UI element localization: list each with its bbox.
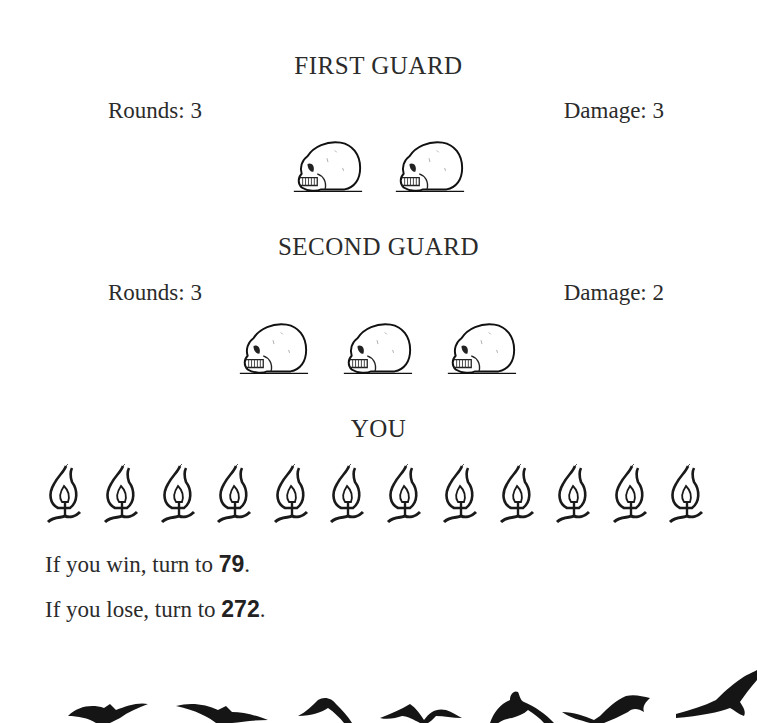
enemy-name-first-guard: FIRST GUARD [0,52,757,80]
enemy-rounds-first-guard: Rounds: 3 [108,98,202,124]
outcome-win: If you win, turn to 79. [45,551,250,578]
skull-icon [390,138,468,194]
skull-icon [288,138,366,194]
flame-icon [271,464,311,526]
flame-icon [384,464,424,526]
flame-icon [666,464,706,526]
enemy-health-first-guard [0,138,757,198]
flame-icon [214,464,254,526]
enemy-health-second-guard [0,320,757,380]
flame-icon [327,464,367,526]
outcome-lose-text: If you lose, turn to [45,597,221,622]
flame-icon [44,464,84,526]
flame-icon [158,464,198,526]
flame-icon [440,464,480,526]
outcome-win-suffix: . [244,552,250,577]
outcome-win-text: If you win, turn to [45,552,219,577]
enemy-damage-second-guard: Damage: 2 [564,280,664,306]
outcome-win-section-link[interactable]: 79 [219,551,245,577]
ravens-flight-icon [0,660,757,723]
enemy-damage-first-guard: Damage: 3 [564,98,664,124]
enemy-name-second-guard: SECOND GUARD [0,233,757,261]
skull-icon [234,320,312,376]
skull-icon [338,320,416,376]
flame-icon [101,464,141,526]
flame-icon [610,464,650,526]
flame-icon [553,464,593,526]
skull-icon [442,320,520,376]
player-name: YOU [0,415,757,443]
outcome-lose-section-link[interactable]: 272 [221,596,259,622]
flame-icon [497,464,537,526]
outcome-lose: If you lose, turn to 272. [45,596,265,623]
player-health [0,464,757,530]
enemy-rounds-second-guard: Rounds: 3 [108,280,202,306]
outcome-lose-suffix: . [260,597,266,622]
